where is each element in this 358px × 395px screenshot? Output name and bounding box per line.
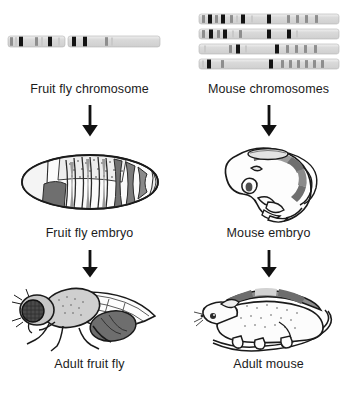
- caption-adult-mouse: Adult mouse: [179, 357, 358, 371]
- caption-fruit-fly-chromosome: Fruit fly chromosome: [0, 82, 179, 96]
- mouse-embryo-svg: [206, 140, 332, 228]
- arrow-mouse-embryo-to-adult: [179, 250, 358, 278]
- caption-adult-fruit-fly: Adult fruit fly: [0, 357, 179, 371]
- column-fruit-fly: Fruit fly chromosome: [0, 0, 179, 395]
- adult-fruit-fly-art: [0, 278, 179, 354]
- mouse-embryo-art: [179, 140, 358, 228]
- caption-mouse-embryo: Mouse embryo: [179, 226, 358, 240]
- fruit-fly-embryo-svg: [14, 140, 166, 224]
- down-arrow-icon: [80, 105, 100, 137]
- arrow-fly-chromosome-to-embryo: [0, 105, 179, 137]
- arrow-fly-embryo-to-adult: [0, 250, 179, 278]
- adult-mouse-art: [179, 278, 358, 354]
- caption-mouse-chromosomes: Mouse chromosomes: [179, 82, 358, 96]
- down-arrow-icon: [80, 250, 100, 278]
- fruit-fly-chromosome-svg: [4, 12, 176, 70]
- adult-mouse-svg: [193, 278, 345, 354]
- mouse-chromosomes-art: [179, 12, 358, 74]
- down-arrow-icon: [259, 250, 279, 278]
- caption-fruit-fly-embryo: Fruit fly embryo: [0, 226, 179, 240]
- fruit-fly-embryo-art: [0, 140, 179, 224]
- mouse-chromosomes-svg: [193, 12, 345, 74]
- column-mouse: Mouse chromosomes: [179, 0, 358, 395]
- adult-fruit-fly-svg: [9, 278, 171, 354]
- homeotic-gene-figure: Fruit fly chromosome: [0, 0, 358, 395]
- fruit-fly-chromosome-art: [0, 12, 179, 70]
- down-arrow-icon: [259, 105, 279, 137]
- arrow-mouse-chromosome-to-embryo: [179, 105, 358, 137]
